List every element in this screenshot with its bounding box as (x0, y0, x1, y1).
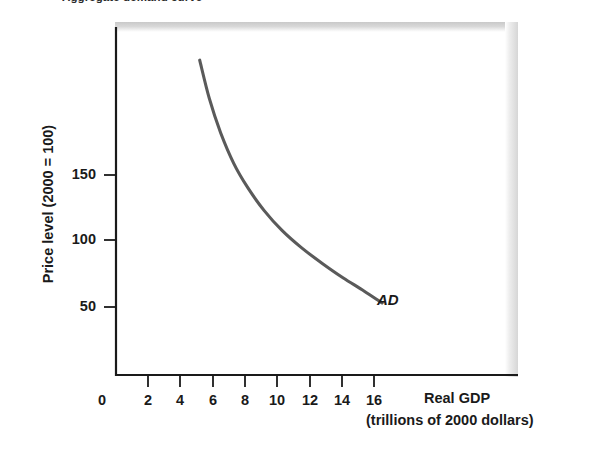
aggregate-demand-figure: Aggregate demand curve Price level (2000 (0, 0, 592, 454)
x-tick-label-0: 0 (89, 392, 115, 408)
x-tick-label-14: 14 (329, 392, 355, 408)
plot-area (0, 0, 592, 454)
x-axis-ticks (148, 375, 374, 387)
ad-curve-label: AD (377, 291, 399, 308)
x-axis-title: Real GDP (424, 390, 490, 406)
x-tick-label-10: 10 (264, 392, 290, 408)
y-tick-label-150: 150 (52, 166, 96, 182)
ad-curve-line (200, 60, 382, 303)
y-tick-label-50: 50 (52, 298, 96, 314)
x-tick-label-8: 8 (232, 392, 258, 408)
x-axis-subtitle: (trillions of 2000 dollars) (366, 412, 534, 428)
x-tick-label-12: 12 (297, 392, 323, 408)
y-axis-title: Price level (2000 = 100) (40, 94, 56, 314)
x-tick-label-4: 4 (167, 392, 193, 408)
x-tick-label-6: 6 (200, 392, 226, 408)
x-tick-label-16: 16 (361, 392, 387, 408)
y-axis-ticks (104, 175, 116, 307)
y-tick-label-100: 100 (52, 231, 96, 247)
x-tick-label-2: 2 (135, 392, 161, 408)
